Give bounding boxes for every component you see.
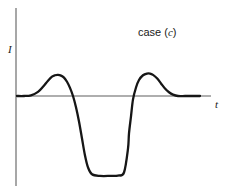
plot-canvas (0, 0, 234, 186)
case-annotation-suffix: ) (173, 26, 177, 38)
waveform-figure: I t case (c) (0, 0, 234, 186)
x-axis-label: t (215, 99, 218, 110)
case-annotation: case (c) (138, 27, 177, 38)
y-axis-label: I (8, 44, 12, 55)
data-series-group (17, 73, 200, 176)
waveform-curve (17, 73, 200, 176)
case-annotation-prefix: case ( (138, 26, 168, 38)
